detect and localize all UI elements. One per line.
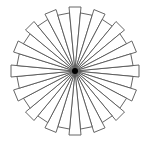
radial-spoke-figure (0, 0, 147, 141)
center-hub-dot (72, 68, 78, 74)
pinwheel-diagram (0, 0, 147, 141)
